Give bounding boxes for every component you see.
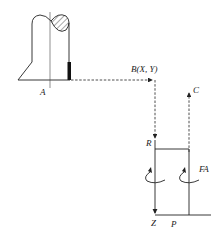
label-B: B(X, Y) (131, 64, 158, 74)
label-Z: Z (151, 218, 157, 228)
label-P: P (170, 219, 177, 229)
tool-black-block (68, 62, 72, 80)
diagram-canvas: A B(X, Y) C R FA Z P (0, 0, 224, 240)
hatched-roller (51, 15, 69, 32)
label-C: C (193, 85, 200, 95)
label-FA: FA (198, 164, 209, 174)
label-A: A (39, 87, 46, 97)
tool-body (18, 12, 71, 88)
label-R: R (145, 138, 152, 148)
